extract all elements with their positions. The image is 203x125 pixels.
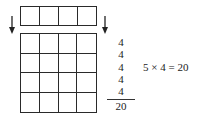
addend: 4 [108, 73, 134, 85]
repeated-addition: 4 4 4 4 4 20 [108, 36, 134, 112]
grid-cell [59, 73, 78, 93]
grid-cell [21, 54, 40, 74]
addend: 4 [108, 48, 134, 60]
grid-cell [59, 34, 78, 54]
grid-cell [77, 73, 96, 93]
addend: 4 [108, 61, 134, 73]
grid-cell [40, 54, 59, 74]
grid-cell [40, 34, 59, 54]
arrow-down-icon [8, 16, 16, 34]
multiplication-equation: 5 × 4 = 20 [143, 61, 188, 73]
strip-cell [40, 7, 59, 25]
grid-cell [21, 73, 40, 93]
grid-cell [40, 93, 59, 113]
addend: 4 [108, 36, 134, 48]
sum-total: 20 [108, 100, 134, 112]
arrow-down-icon [101, 16, 109, 34]
single-row-strip [20, 6, 97, 26]
grid-cell [21, 34, 40, 54]
grid-cell [77, 93, 96, 113]
strip-cell [59, 7, 78, 25]
grid-cell [40, 73, 59, 93]
grid-cell [21, 93, 40, 113]
four-by-four-grid [20, 33, 97, 113]
grid-cell [77, 54, 96, 74]
grid-cell [77, 34, 96, 54]
grid-cell [59, 54, 78, 74]
addend: 4 [108, 85, 134, 97]
strip-cell [21, 7, 40, 25]
grid-cell [59, 93, 78, 113]
strip-cell [78, 7, 96, 25]
